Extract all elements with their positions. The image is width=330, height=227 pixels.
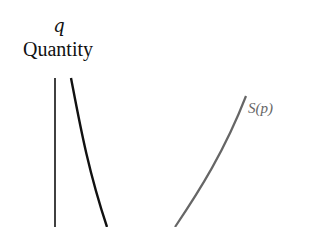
y-axis-label: Quantity bbox=[13, 38, 103, 61]
demand-curve bbox=[71, 78, 107, 227]
supply-curve-label: S(p) bbox=[248, 100, 273, 117]
y-axis-symbol: q bbox=[49, 15, 69, 36]
supply-curve bbox=[175, 96, 246, 227]
